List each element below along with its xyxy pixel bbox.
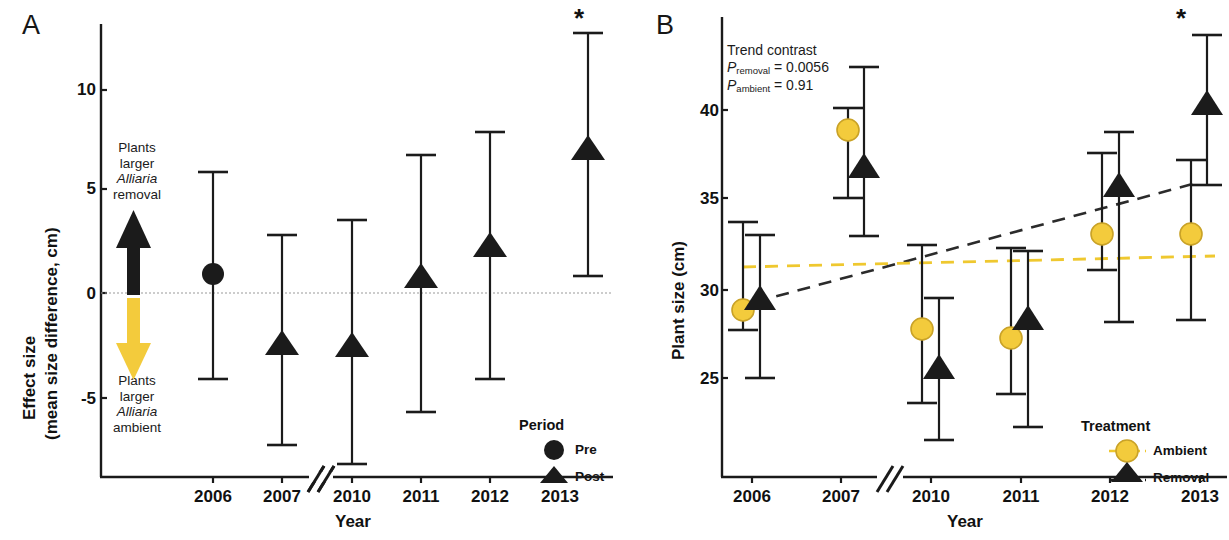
panel-a: A Effect size (mean size difference, cm)… [0, 0, 615, 540]
panel-a-datapoint-2007 [265, 235, 299, 445]
panel-b-trendline-ambient [743, 256, 1215, 267]
panel-b-datapoint-2006-ambient [728, 222, 758, 330]
panel-a-datapoint-2012 [473, 132, 507, 379]
panel-b-legend-marker-ambient [1109, 440, 1146, 462]
panel-a-legend-marker-circle [544, 440, 564, 460]
panel-a-datapoint-2010 [335, 220, 369, 464]
panel-b-datapoint-2010-ambient [907, 245, 937, 403]
panel-b-datapoint-2007-ambient [833, 108, 863, 198]
panel-a-down-arrow-icon [116, 298, 151, 380]
panel-b: B Plant size (cm) Year 40 35 30 25 2006 … [615, 0, 1229, 540]
panel-b-datapoint-2006-removal [744, 235, 776, 378]
panel-a-legend-marker-triangle [540, 466, 568, 483]
panel-b-legend-marker-removal [1109, 462, 1146, 482]
panel-a-plot [0, 0, 615, 540]
figure-root: A Effect size (mean size difference, cm)… [0, 0, 1229, 540]
panel-a-datapoint-2013 [571, 33, 605, 276]
panel-b-datapoint-2013-removal [1191, 35, 1223, 185]
panel-b-plot [615, 0, 1229, 540]
panel-b-datapoint-2012-ambient [1087, 153, 1117, 270]
panel-b-datapoint-2007-removal [848, 67, 880, 236]
panel-a-datapoint-2011 [404, 155, 438, 412]
panel-b-trendline-removal [755, 182, 1200, 302]
panel-a-datapoint-2006 [198, 172, 228, 379]
panel-a-up-arrow-icon [116, 210, 151, 295]
